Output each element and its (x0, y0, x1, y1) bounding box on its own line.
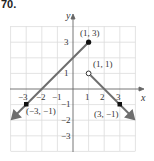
axes (10, 14, 144, 152)
svg-text:2: 2 (100, 92, 105, 102)
label-neg3-neg1: (−3, −1) (26, 106, 56, 116)
closed-point-1-3 (86, 40, 91, 45)
y-axis-label: y (65, 10, 71, 21)
graph: y x −3 −2 −1 1 2 3 3 1 −1 −2 −3 (1, 3) (… (0, 0, 154, 161)
svg-text:1: 1 (64, 68, 69, 78)
label-3-neg1: (3, −1) (94, 109, 119, 119)
point-3-neg1 (118, 102, 123, 107)
svg-text:−1: −1 (61, 99, 71, 109)
svg-text:−2: −2 (61, 115, 71, 125)
svg-text:−3: −3 (18, 92, 28, 102)
label-1-1: (1, 1) (93, 59, 113, 69)
open-point-1-1 (86, 71, 91, 76)
svg-text:1: 1 (85, 92, 90, 102)
svg-text:−3: −3 (61, 131, 71, 141)
svg-text:3: 3 (64, 37, 69, 47)
x-axis-label: x (140, 92, 146, 103)
label-1-3: (1, 3) (80, 28, 100, 38)
